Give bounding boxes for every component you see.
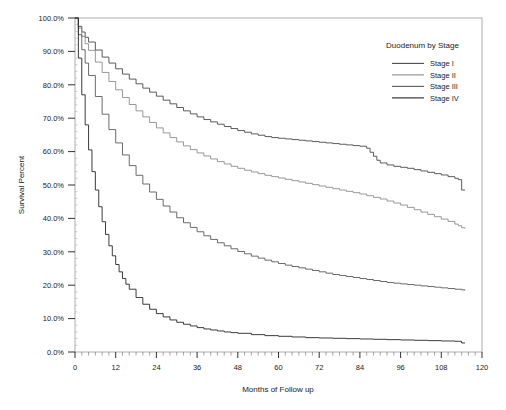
y-tick-label: 80.0% xyxy=(43,81,65,90)
y-tick-label: 30.0% xyxy=(43,248,65,257)
legend-label-stage-ii: Stage II xyxy=(430,71,456,80)
x-tick-label: 36 xyxy=(193,363,201,372)
survival-chart-figure: 0.0%10.0%20.0%30.0%40.0%50.0%60.0%70.0%8… xyxy=(0,0,506,410)
x-tick-label: 24 xyxy=(152,363,160,372)
legend-label-stage-i: Stage I xyxy=(430,59,454,68)
x-axis-title: Months of Follow up xyxy=(242,385,314,394)
legend-title: Duodenum by Stage xyxy=(386,41,459,50)
y-tick-label: 50.0% xyxy=(43,181,65,190)
x-tick-label: 0 xyxy=(73,363,77,372)
x-tick-label: 120 xyxy=(476,363,489,372)
y-tick-label: 40.0% xyxy=(43,214,65,223)
y-tick-label: 20.0% xyxy=(43,281,65,290)
legend-label-stage-iv: Stage IV xyxy=(430,94,459,103)
y-tick-label: 60.0% xyxy=(43,147,65,156)
x-tick-label: 48 xyxy=(234,363,242,372)
x-tick-label: 108 xyxy=(435,363,448,372)
x-tick-label: 60 xyxy=(274,363,282,372)
y-tick-label: 90.0% xyxy=(43,47,65,56)
x-tick-label: 12 xyxy=(112,363,120,372)
x-tick-label: 96 xyxy=(396,363,404,372)
y-tick-label: 70.0% xyxy=(43,114,65,123)
x-tick-label: 84 xyxy=(356,363,364,372)
y-tick-label: 100.0% xyxy=(39,14,65,23)
y-axis-title: Survival Percent xyxy=(17,155,26,214)
legend-label-stage-iii: Stage III xyxy=(430,82,458,91)
y-tick-label: 0.0% xyxy=(47,348,64,357)
x-tick-label: 72 xyxy=(315,363,323,372)
y-tick-label: 10.0% xyxy=(43,314,65,323)
kaplan-meier-chart: 0.0%10.0%20.0%30.0%40.0%50.0%60.0%70.0%8… xyxy=(0,0,506,410)
